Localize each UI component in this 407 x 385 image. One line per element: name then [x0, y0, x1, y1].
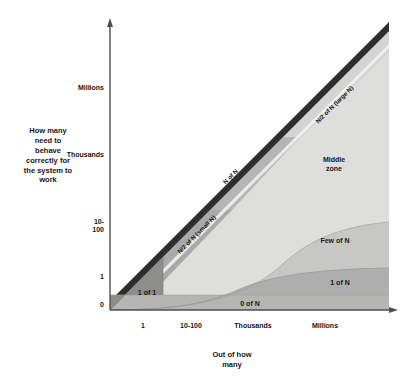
y-tick-zero: 0: [42, 301, 104, 309]
label-middle-zone-line2: zone: [326, 165, 342, 172]
y-axis-arrowhead: [107, 18, 113, 27]
diagram-figure: 1 of 1 0 of N 1 of N Few of N Middle zon…: [0, 0, 407, 385]
plot-regions: [101, 22, 389, 310]
label-one-of-n: 1 of N: [330, 279, 349, 286]
y-tick-ten-hundred: 10- 100: [42, 218, 104, 234]
x-tick-ten-hundred: 10-100: [156, 322, 226, 330]
x-tick-thousands: Thousands: [218, 322, 288, 330]
x-axis-arrowhead: [389, 307, 398, 313]
label-few-of-n: Few of N: [320, 237, 349, 244]
label-middle-zone-line1: Middle: [323, 156, 345, 163]
y-tick-millions: Millions: [42, 84, 104, 92]
x-tick-millions: Millions: [290, 322, 360, 330]
y-axis-title: How many need to behave correctly for th…: [6, 126, 90, 185]
label-zero-of-n: 0 of N: [240, 300, 259, 307]
y-tick-one: 1: [42, 273, 104, 281]
x-axis-title: Out of how many: [176, 350, 288, 370]
label-one-of-one: 1 of 1: [138, 289, 156, 296]
